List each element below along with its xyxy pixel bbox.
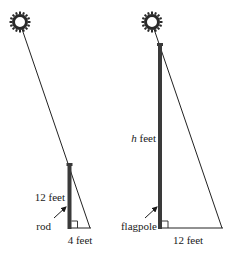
rod — [68, 165, 72, 229]
sun-ray-flagpole — [154, 29, 222, 228]
rod-shadow-label: 4 feet — [68, 234, 93, 246]
rod-height-label: 12 feet — [35, 191, 65, 203]
sun-icon — [10, 12, 31, 33]
flagpole-scene: h feet flagpole 12 feet — [121, 12, 223, 247]
flagpole-height-label: h feet — [131, 132, 156, 144]
rod-label: rod — [36, 220, 51, 232]
sun-icon — [142, 12, 163, 33]
rod-cap — [67, 163, 73, 166]
flagpole-shadow-label: 12 feet — [173, 234, 203, 246]
right-angle-marker — [72, 221, 78, 228]
rod-pointer-arrow — [54, 207, 66, 218]
flagpole-label: flagpole — [121, 220, 157, 232]
flagpole-cap — [157, 43, 163, 46]
rod-scene: 12 feet rod 4 feet — [10, 12, 93, 247]
right-angle-marker — [162, 221, 168, 228]
diagram-canvas: 12 feet rod 4 feet h feet flagpole 12 fe… — [0, 0, 236, 257]
flagpole — [158, 45, 162, 229]
flagpole-pointer-arrow — [145, 207, 157, 218]
